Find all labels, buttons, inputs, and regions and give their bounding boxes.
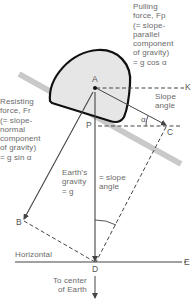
label-point-d: D [92,265,98,274]
rock-shape [50,50,130,122]
line-c-d [96,127,166,262]
label-point-e: E [184,258,190,267]
slope-angle-label: Slope angle [155,92,176,111]
label-point-b: B [16,218,22,227]
pulling-force-label: Pulling force, Fp (= slope- parallel com… [133,2,173,67]
label-point-c: C [167,128,173,137]
earth-gravity-label: Earth's gravity = g [62,168,87,196]
label-point-a: A [92,75,98,84]
horizontal-label: Horizontal [15,250,52,259]
resisting-force-label: Resisting force, Fr (= slope- normal com… [0,97,40,162]
slope-angle-arc-d [95,220,116,225]
alpha-angle-arc [146,116,148,126]
to-center-of-earth-label: To center of Earth [53,276,87,295]
label-point-p: P [86,121,92,130]
label-point-k: K [185,83,191,92]
equals-slope-angle-label: = slope angle [99,173,126,192]
label-alpha: α [141,115,146,124]
point-a-dot [93,86,97,90]
